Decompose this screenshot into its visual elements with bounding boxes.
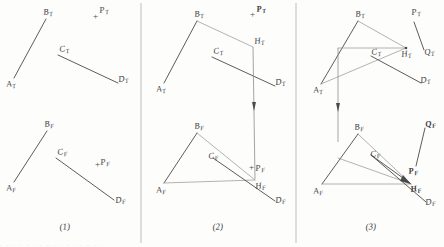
label-AF-p2: AF [156,185,166,195]
projector-arrowhead-p2 [252,102,256,111]
label-AT-p2: AT [156,84,166,94]
label-AT-p1: AT [6,79,16,89]
label-AF-p3: AF [313,186,323,196]
label-PF-p3: PF [408,166,419,176]
caption-panel-3: (3) [365,221,376,232]
label-HT-p2: HT [254,36,265,46]
segment-CF-DF-p3 [371,155,426,202]
label-HF-p2: HF [255,181,266,191]
label-PT-p2: PT [256,4,266,14]
plus-marker-PT-p1: + [93,12,98,21]
label-CF-p1: CF [57,147,68,157]
segment-CT-DT-p1 [58,55,118,83]
segment-CT-DT-p2 [212,57,275,86]
segment-AF-BF-p1 [14,131,47,182]
segment-PT-QT-p3 [414,22,424,50]
plus-marker-PF-p2: + [249,163,254,172]
segment-AT-BT-p1 [14,19,46,78]
panel-2-projector [252,47,256,179]
segment-AF-HF-p2 [164,180,255,183]
label-PF-p2: PF [255,163,265,173]
label-BF-p3: BF [354,122,364,132]
label-DT-p2: DT [275,77,286,87]
label-DT-p1: DT [118,74,129,84]
label-DF-p1: DF [115,195,126,205]
segment-PF-QF-p3 [416,128,425,166]
projector-line-HT-HF-p2 [253,47,255,179]
label-PT-p1: PT [99,5,109,15]
label-QT-p3: QT [424,47,435,57]
segment-BT-HT-p3 [358,21,406,48]
label-BF-p2: BF [194,121,204,131]
segment-AT-BT-p3 [321,21,358,84]
label-AT-p3: AT [313,85,323,95]
label-DF-p2: DF [275,195,286,205]
label-BF-p1: BF [44,119,54,129]
label-CT-p3: CT [371,47,382,57]
label-HT-p3: HT [401,49,412,59]
segment-BT-HT-p2 [197,21,253,47]
segment-CT-DT-p3 [371,56,421,83]
segment-AT-BT-p2 [164,21,197,83]
segment-BF-HF-p2 [197,133,255,180]
clipped-bottom-text: . . . . . . . . . . . . . . . . [0,240,444,246]
label-BT-p2: BT [194,9,204,19]
label-BT-p1: BT [43,7,53,17]
caption-panel-2: (2) [212,221,223,232]
segment-AT-HT-p3 [321,48,406,84]
label-AF-p1: AF [6,183,16,193]
projector-arrowhead-p3 [336,103,340,112]
label-CT-p2: CT [213,46,224,56]
label-HF-p3: HF [410,184,422,194]
label-PF-p1: PF [100,157,110,167]
label-CF-p3: CF [370,149,381,159]
label-PT-p3: PT [411,7,421,17]
figure-root: AT BT CT DT + PT AF BF CF DF + PF AT BT … [0,0,444,247]
plus-marker-PT-p2: + [250,10,255,19]
figure-drawing-canvas [0,0,444,247]
label-CF-p2: CF [208,151,219,161]
label-DT-p3: DT [420,75,431,85]
label-QF-p3: QF [425,119,437,129]
segment-CF-DF-p2 [213,158,275,201]
arrowhead-to-HF-p3 [400,175,411,184]
segment-AF-BF-p2 [164,133,197,183]
caption-panel-1: (1) [59,221,70,232]
label-DF-p3: DF [425,197,436,207]
panel-3-projector [336,48,340,142]
label-CT-p1: CT [59,44,70,54]
label-BT-p3: BT [355,9,365,19]
